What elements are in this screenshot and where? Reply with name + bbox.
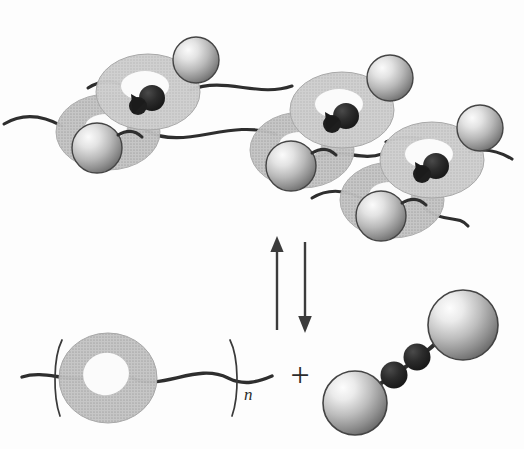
supramolecular-scheme-svg: n + <box>0 0 524 449</box>
guest-stopper-sphere <box>428 290 498 360</box>
bottom-left-repeat-unit: n <box>22 333 272 423</box>
guest-binding-bead <box>404 344 431 371</box>
assembly-unit-1 <box>56 37 219 173</box>
polymer-chain <box>190 85 292 90</box>
equilibrium-arrows <box>270 236 311 333</box>
figure-canvas: n + <box>0 0 524 449</box>
arrow-down <box>298 242 312 333</box>
guest-stopper-sphere <box>323 371 387 435</box>
arrow-up <box>270 236 283 330</box>
host-ring <box>59 333 157 423</box>
repeat-subscript-n: n <box>244 385 253 404</box>
polymer-chain <box>4 117 62 126</box>
ditopic-guest-molecule <box>323 290 498 435</box>
plus-sign: + <box>290 356 309 393</box>
top-assembly <box>4 37 512 241</box>
guest-binding-bead <box>381 362 408 389</box>
